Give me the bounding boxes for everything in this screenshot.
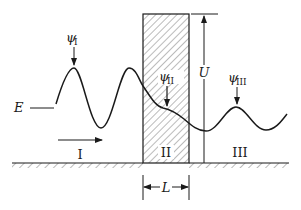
svg-text:III: III — [236, 77, 247, 87]
tunneling-diagram: U E ψ I ψ II ψ III I II III L — [0, 0, 301, 210]
barrier-width-indicator: L — [143, 175, 189, 200]
svg-text:II: II — [167, 76, 175, 86]
potential-barrier — [143, 14, 189, 163]
region-I-label: I — [77, 147, 82, 162]
region-II-label: II — [161, 145, 171, 160]
psi1-label: ψ I — [66, 30, 78, 65]
barrier-height-indicator: U — [191, 14, 218, 163]
ground — [12, 163, 289, 168]
region-III-label: III — [232, 145, 247, 160]
psi3-label: ψ III — [228, 70, 247, 104]
label-L: L — [161, 180, 171, 195]
label-U: U — [199, 65, 211, 80]
svg-text:I: I — [74, 37, 78, 47]
label-E: E — [13, 100, 24, 115]
